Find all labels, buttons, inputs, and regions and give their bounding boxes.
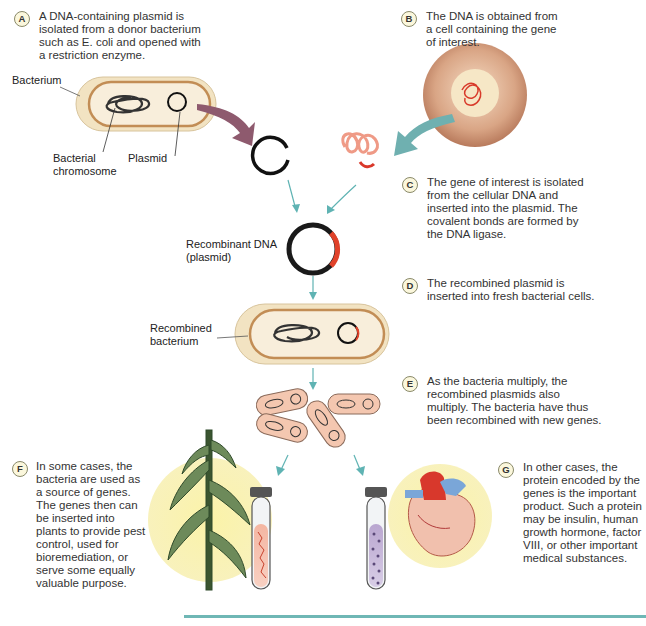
- multiplied-bacteria: [254, 387, 380, 451]
- donor-bacterium: [76, 77, 216, 131]
- step-a-text: A DNA-containing plasmid is isolated fro…: [39, 10, 249, 62]
- bottom-rule: [184, 615, 646, 618]
- step-f-text: In some cases, the bacteria are used as …: [36, 460, 166, 590]
- step-badge-f: F: [12, 461, 28, 477]
- step-b-text: The DNA is obtained from a cell containi…: [426, 10, 626, 49]
- step-e-text: As the bacteria multiply, the recombined…: [427, 375, 637, 427]
- label-recombined-bacterium: Recombined bacterium: [150, 322, 212, 348]
- step-c-text: The gene of interest is isolated from th…: [427, 176, 637, 241]
- test-tube-red: [250, 487, 272, 589]
- label-recombinant-dna: Recombinant DNA (plasmid): [186, 238, 277, 264]
- recombined-bacterium: [235, 304, 389, 364]
- step-badge-g: G: [498, 462, 514, 478]
- step-badge-a: A: [14, 11, 30, 27]
- step-g-text: In other cases, the protein encoded by t…: [523, 461, 646, 565]
- step-badge-c: C: [402, 177, 418, 193]
- label-plasmid: Plasmid: [128, 152, 167, 165]
- step-d-text: The recombined plasmid is inserted into …: [427, 277, 637, 303]
- step-badge-d: D: [402, 278, 418, 294]
- test-tube-purple: [365, 487, 387, 589]
- step-badge-e: E: [402, 376, 418, 392]
- step-badge-b: B: [401, 11, 417, 27]
- label-bacterial-chromosome: Bacterial chromosome: [53, 152, 117, 178]
- source-cell: [423, 43, 527, 147]
- label-bacterium: Bacterium: [12, 74, 62, 87]
